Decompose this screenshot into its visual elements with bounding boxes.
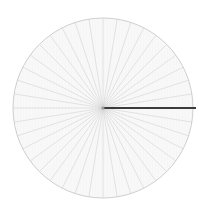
center-hub-dot: [101, 106, 104, 109]
radial-diagram-figure: [0, 0, 216, 218]
radial-diagram-canvas: [0, 0, 216, 218]
